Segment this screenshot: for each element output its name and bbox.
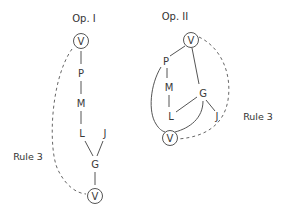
- op1-node-g: G: [91, 159, 99, 170]
- op2-node-p: P: [163, 56, 169, 67]
- op2-node-g: G: [199, 88, 207, 99]
- diagram-op1: Op. I Rule 3 V P M L J G V: [13, 13, 106, 204]
- op2-title: Op. II: [162, 11, 188, 22]
- op2-edge-g-j: [206, 100, 215, 111]
- op1-node-l: L: [79, 128, 85, 139]
- op2-node-j: J: [215, 111, 219, 122]
- diagram-canvas: Op. I Rule 3 V P M L J G V Op. II Rule 3…: [0, 0, 284, 217]
- op1-node-bottom-v: V: [92, 191, 99, 202]
- op1-node-m: M: [77, 98, 86, 109]
- op1-edge-j-g: [97, 141, 103, 156]
- diagram-op2: Op. II Rule 3 V P M L G J V: [151, 11, 273, 146]
- op2-edge-g-l: [176, 97, 197, 112]
- op2-rule3-label: Rule 3: [243, 111, 273, 122]
- op2-node-l: L: [168, 111, 174, 122]
- op1-rule3-label: Rule 3: [13, 151, 43, 162]
- op2-node-m: M: [165, 82, 174, 93]
- op1-title: Op. I: [72, 13, 96, 24]
- op2-edge-v-p: [170, 46, 185, 56]
- op2-edge-g-bottom-v: [175, 101, 203, 132]
- op1-node-j: J: [103, 128, 107, 139]
- op1-node-top-v: V: [78, 36, 85, 47]
- op2-node-bottom-v: V: [167, 133, 174, 144]
- op2-edge-p-bottom-v: [151, 67, 165, 132]
- op1-edge-l-g: [85, 141, 93, 156]
- op2-edge-v-g: [192, 48, 199, 84]
- op2-node-top-v: V: [188, 35, 195, 46]
- op1-node-p: P: [78, 68, 84, 79]
